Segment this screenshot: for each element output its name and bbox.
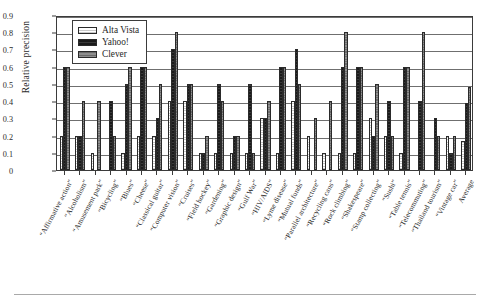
bar-clever xyxy=(97,101,100,170)
bar-group xyxy=(428,17,443,170)
bar-group xyxy=(196,17,211,170)
bar-group xyxy=(165,17,180,170)
bar-group xyxy=(397,17,412,170)
x-tick-mark xyxy=(187,171,188,175)
bar-clever xyxy=(113,136,116,170)
bar-group xyxy=(412,17,427,170)
legend-label-yahoo: Yahoo! xyxy=(102,37,129,47)
bar-group xyxy=(227,17,242,170)
bar-group xyxy=(443,17,458,170)
bar-alta-vista xyxy=(322,153,325,170)
y-tick-label: 0.2 xyxy=(0,132,13,141)
x-tick-mark xyxy=(388,171,389,175)
x-tick-mark xyxy=(95,171,96,175)
bar-alta-vista xyxy=(91,153,94,170)
bar-clever xyxy=(159,84,162,170)
y-tick-label: 0.7 xyxy=(0,46,13,55)
x-tick-mark xyxy=(126,171,127,175)
bar-clever xyxy=(66,67,69,170)
bar-group xyxy=(242,17,257,170)
x-tick-mark xyxy=(203,171,204,175)
bar-clever xyxy=(468,87,471,170)
bar-group xyxy=(459,17,474,170)
bar-clever xyxy=(175,32,178,170)
x-tick-mark xyxy=(465,171,466,175)
x-tick-mark xyxy=(326,171,327,175)
bar-alta-vista xyxy=(307,136,310,170)
x-tick-mark xyxy=(218,171,219,175)
bar-clever xyxy=(128,67,131,170)
bar-group xyxy=(57,17,72,170)
bar-clever xyxy=(298,84,301,170)
y-tick-label: 0.1 xyxy=(0,149,13,158)
bar-group xyxy=(150,17,165,170)
bar-group xyxy=(273,17,288,170)
bar-clever xyxy=(190,84,193,170)
bar-group xyxy=(181,17,196,170)
bar-group xyxy=(211,17,226,170)
y-tick-label: 0 xyxy=(0,167,13,176)
bar-clever xyxy=(453,136,456,170)
bar-group xyxy=(289,17,304,170)
x-tick-mark xyxy=(110,171,111,175)
x-tick-mark xyxy=(172,171,173,175)
bar-chart-figure: Relative precision 00.10.20.30.40.50.60.… xyxy=(0,0,490,304)
x-tick-mark xyxy=(249,171,250,175)
x-tick-mark xyxy=(141,171,142,175)
bar-clever xyxy=(360,67,363,170)
x-tick-mark xyxy=(342,171,343,175)
bar-clever xyxy=(314,118,317,170)
x-tick-mark xyxy=(419,171,420,175)
bar-group xyxy=(258,17,273,170)
clever-swatch-icon xyxy=(78,51,97,58)
y-tick-label: 0.8 xyxy=(0,29,13,38)
bar-clever xyxy=(144,67,147,170)
bar-clever xyxy=(437,136,440,170)
x-tick-mark xyxy=(280,171,281,175)
bar-group xyxy=(350,17,365,170)
bar-clever xyxy=(82,101,85,170)
y-tick-label: 0.6 xyxy=(0,63,13,72)
bar-clever xyxy=(283,67,286,170)
bar-group xyxy=(335,17,350,170)
legend-label-clever: Clever xyxy=(102,49,127,59)
yahoo-swatch-icon xyxy=(78,39,97,46)
legend-label-alta-vista: Alta Vista xyxy=(102,25,139,35)
x-tick-mark xyxy=(156,171,157,175)
x-tick-mark xyxy=(373,171,374,175)
x-tick-mark xyxy=(357,171,358,175)
bar-clever xyxy=(252,153,255,170)
legend-item-alta-vista: Alta Vista xyxy=(78,24,139,36)
bar-clever xyxy=(422,32,425,170)
bar-group xyxy=(320,17,335,170)
bar-clever xyxy=(329,101,332,170)
x-tick-mark xyxy=(404,171,405,175)
x-tick-mark xyxy=(434,171,435,175)
bar-clever xyxy=(406,67,409,170)
bar-clever xyxy=(344,32,347,170)
bar-group xyxy=(366,17,381,170)
footer-rule xyxy=(14,294,476,295)
y-tick-label: 0.9 xyxy=(0,12,13,21)
x-tick-mark xyxy=(295,171,296,175)
chart-legend: Alta Vista Yahoo! Clever xyxy=(72,20,147,64)
x-tick-mark xyxy=(234,171,235,175)
bar-clever xyxy=(391,136,394,170)
bar-group xyxy=(304,17,319,170)
x-tick-mark xyxy=(265,171,266,175)
alta-vista-swatch-icon xyxy=(78,27,97,34)
legend-item-clever: Clever xyxy=(78,48,139,60)
y-tick-label: 0.5 xyxy=(0,80,13,89)
bar-clever xyxy=(205,136,208,170)
legend-item-yahoo: Yahoo! xyxy=(78,36,139,48)
x-tick-mark xyxy=(311,171,312,175)
y-tick-label: 0.4 xyxy=(0,98,13,107)
x-tick-mark xyxy=(79,171,80,175)
bar-clever xyxy=(375,84,378,170)
y-axis-title: Relative precision xyxy=(21,0,31,127)
bar-clever xyxy=(221,101,224,170)
bar-group xyxy=(381,17,396,170)
bar-clever xyxy=(267,101,270,170)
y-tick-label: 0.3 xyxy=(0,115,13,124)
x-tick-mark xyxy=(64,171,65,175)
